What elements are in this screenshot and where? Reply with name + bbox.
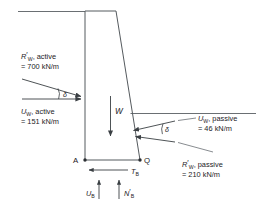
passive-resultant-leader <box>178 143 213 153</box>
weight-label: W <box>115 107 124 116</box>
base-water-label: UB <box>86 189 95 199</box>
wall-face-right <box>116 11 140 160</box>
passive-resultant-label: R′W, passive <box>182 158 223 169</box>
passive-water-value: = 46 kN/m <box>198 124 232 133</box>
force-diagram-container: R′W, active = 700 kN/m UW, active = 151 … <box>0 0 257 213</box>
passive-resultant-arrow <box>136 137 176 143</box>
base-normal-label: N′B <box>124 187 135 198</box>
node-label-a: A <box>73 156 79 165</box>
base-shear-label: TB <box>131 167 140 177</box>
active-resultant-value: = 700 kN/m <box>21 62 59 71</box>
active-resultant-label: R′W, active <box>21 50 56 61</box>
active-water-label: UW, active <box>21 107 55 117</box>
passive-resultant-value: = 210 kN/m <box>182 170 220 179</box>
active-resultant-arrow <box>22 79 81 97</box>
retaining-wall-force-diagram: R′W, active = 700 kN/m UW, active = 151 … <box>0 0 257 213</box>
active-friction-angle-label: δ <box>63 91 67 98</box>
node-label-q: Q <box>144 156 150 165</box>
passive-water-label: UW, passive <box>198 114 237 124</box>
passive-friction-angle-label: δ <box>165 126 169 133</box>
node-point-q <box>138 158 141 161</box>
passive-water-leader <box>178 118 196 121</box>
node-point-a <box>83 158 86 161</box>
passive-friction-angle-arc <box>162 124 163 134</box>
active-water-value: = 151 kN/m <box>21 117 59 126</box>
